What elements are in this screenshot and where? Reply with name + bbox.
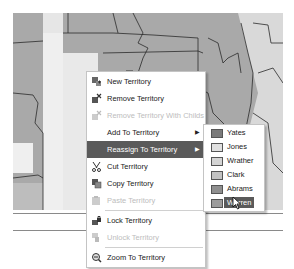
- zoom-icon: [91, 252, 102, 263]
- menu-separator: [105, 210, 203, 211]
- submenu-arrow-icon: ▶: [195, 141, 200, 158]
- menu-item-reassign-to-territory[interactable]: Reassign To Territory ▶: [87, 141, 205, 158]
- submenu-item-yates[interactable]: Yates: [204, 126, 264, 140]
- menu-item-lock-territory[interactable]: Lock Territory: [87, 212, 205, 229]
- submenu-item-wrather[interactable]: Wrather: [204, 154, 264, 168]
- copy-icon: [91, 178, 102, 189]
- territory-color-swatch: [211, 129, 223, 138]
- menu-item-add-to-territory[interactable]: Add To Territory ▶: [87, 124, 205, 141]
- menu-item-cut-territory[interactable]: Cut Territory: [87, 158, 205, 175]
- territory-color-swatch: [211, 143, 223, 152]
- new-territory-icon: [91, 76, 102, 87]
- context-menu: New Territory Remove Territory Remove Te…: [86, 71, 206, 268]
- menu-item-new-territory[interactable]: New Territory: [87, 73, 205, 90]
- lock-icon: [91, 215, 102, 226]
- cut-icon: [91, 161, 102, 172]
- menu-item-remove-territory-with-childs[interactable]: Remove Territory With Childs: [87, 107, 205, 124]
- remove-territory-icon: [91, 93, 102, 104]
- menu-separator: [105, 247, 203, 248]
- submenu-arrow-icon: ▶: [195, 124, 200, 141]
- menu-item-paste-territory[interactable]: Paste Territory: [87, 192, 205, 209]
- menu-item-copy-territory[interactable]: Copy Territory: [87, 175, 205, 192]
- unlock-icon: [91, 232, 102, 243]
- territory-color-swatch: [211, 171, 223, 180]
- menu-item-zoom-to-territory[interactable]: Zoom To Territory: [87, 249, 205, 266]
- remove-territory-childs-icon: [91, 110, 102, 121]
- submenu-item-abrams[interactable]: Abrams: [204, 182, 264, 196]
- submenu-item-clark[interactable]: Clark: [204, 168, 264, 182]
- territory-color-swatch: [211, 199, 223, 208]
- mouse-pointer-icon: [232, 196, 242, 214]
- submenu-item-jones[interactable]: Jones: [204, 140, 264, 154]
- territory-color-swatch: [211, 185, 223, 194]
- menu-item-remove-territory[interactable]: Remove Territory: [87, 90, 205, 107]
- paste-icon: [91, 195, 102, 206]
- territory-color-swatch: [211, 157, 223, 166]
- menu-item-unlock-territory[interactable]: Unlock Territory: [87, 229, 205, 246]
